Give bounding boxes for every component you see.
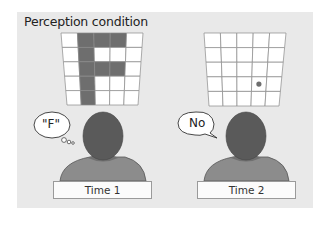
grid-cell	[237, 33, 253, 48]
grid-cell	[124, 76, 140, 90]
grid-cell	[222, 77, 237, 92]
grid-cell	[110, 76, 125, 90]
thought-text: "F"	[42, 117, 60, 131]
grid-cell-filled	[94, 33, 110, 47]
head-shape	[226, 112, 266, 160]
time-label-1: Time 1	[53, 181, 152, 199]
grid-cell	[205, 48, 221, 63]
grid-cell	[251, 91, 266, 106]
grid-cell	[237, 77, 252, 92]
grid-cell	[237, 91, 251, 106]
grid-cell	[237, 48, 253, 63]
grid-cell	[94, 47, 110, 61]
grid-cell	[61, 33, 78, 47]
stimulus-grid-time2	[204, 33, 286, 106]
grid-cell	[95, 76, 110, 90]
grid-cell	[124, 91, 139, 105]
time-label-2: Time 2	[197, 181, 296, 199]
speech-text: No	[189, 116, 205, 130]
grid-cell	[221, 48, 237, 63]
grid-cell	[252, 62, 268, 77]
grid-cell-filled	[79, 62, 95, 76]
stimulus-grid-time1	[61, 33, 143, 105]
thought-dot	[67, 140, 71, 144]
grid-cell-filled	[77, 33, 94, 47]
grid-cell	[63, 62, 79, 76]
grid-cell	[221, 62, 236, 77]
grid-cell-filled	[80, 91, 95, 105]
grid-cell	[237, 62, 252, 77]
thought-dot	[62, 138, 67, 143]
grid-cell	[204, 33, 221, 48]
grid-cell-filled	[94, 62, 110, 76]
grid-cell	[267, 62, 283, 77]
grid-cell	[95, 91, 110, 105]
thought-dot	[72, 142, 75, 145]
grid-cell	[268, 48, 285, 63]
grid-cell	[110, 47, 126, 61]
grid-cell-filled	[110, 33, 127, 47]
grid-cell	[252, 48, 268, 63]
grid-cell	[206, 62, 222, 77]
grid-cell-filled	[80, 76, 95, 90]
grid-cell	[125, 47, 142, 61]
grid-cell	[222, 91, 237, 106]
grid-cell	[220, 33, 236, 48]
grid-cell	[253, 33, 270, 48]
grid-cell	[66, 91, 81, 105]
grid-cell	[126, 33, 143, 47]
target-dot	[256, 82, 261, 87]
grid-cell	[62, 47, 79, 61]
grid-cell	[266, 77, 282, 92]
grid-cell-filled	[78, 47, 94, 61]
grid-cell-filled	[110, 62, 126, 76]
grid-cell	[65, 76, 81, 90]
grid-cell	[265, 91, 280, 106]
grid-cell	[110, 91, 125, 105]
grid-cell	[125, 62, 141, 76]
head-shape	[83, 112, 123, 160]
grid-cell	[207, 77, 222, 92]
grid-cell	[269, 33, 286, 48]
grid-cell	[208, 91, 223, 106]
